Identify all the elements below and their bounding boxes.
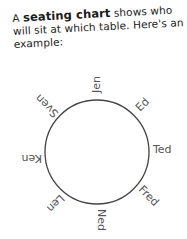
seat-name-jen: Jen: [90, 76, 103, 94]
seat-name-fred: Fred: [136, 183, 162, 209]
seat-name-len: Len: [44, 192, 67, 215]
seat-name-ted: Ted: [152, 143, 172, 156]
round-table: [45, 100, 149, 204]
seat-name-sven: Sven: [33, 91, 61, 119]
seat-name-ken: Ken: [22, 152, 42, 165]
seat-name-ned: Ned: [95, 209, 108, 231]
seating-chart: Jen Ed Ted Fred Ned Len Ken Sven: [0, 0, 187, 239]
seat-name-ed: Ed: [133, 95, 152, 114]
